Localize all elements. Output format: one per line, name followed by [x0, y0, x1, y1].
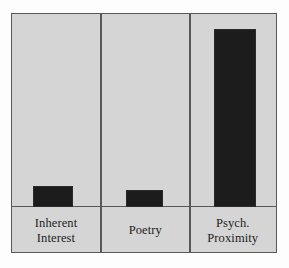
chart-frame: Inherent Interest Poetry Psych. Proximit: [11, 13, 277, 253]
category-column-psych-proximity: Psych. Proximity: [191, 14, 276, 252]
category-label-line-2: Proximity: [207, 231, 258, 246]
category-label-line-1: Inherent: [35, 216, 77, 231]
category-label-psych-proximity: Psych. Proximity: [191, 207, 276, 254]
category-label-line-1: Psych.: [216, 216, 250, 231]
bar-psych-proximity: [214, 29, 256, 207]
category-label-line-2: Interest: [37, 231, 75, 246]
bar-slot-2: [102, 14, 190, 207]
bar-chart-figure: Inherent Interest Poetry Psych. Proximit: [0, 0, 289, 268]
category-label-line-1: Poetry: [129, 223, 162, 238]
bar-poetry: [126, 190, 163, 207]
bar-slot-1: [12, 14, 100, 207]
bar-slot-3: [191, 14, 276, 207]
category-column-inherent-interest: Inherent Interest: [12, 14, 100, 252]
category-label-inherent-interest: Inherent Interest: [12, 207, 100, 254]
bar-inherent-interest: [33, 186, 73, 207]
category-column-poetry: Poetry: [102, 14, 190, 252]
category-label-poetry: Poetry: [102, 207, 190, 254]
